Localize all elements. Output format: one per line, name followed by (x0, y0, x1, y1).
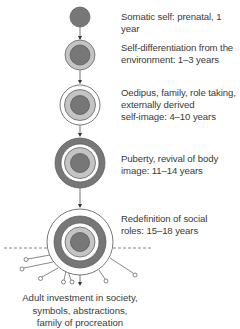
stage-4-label: Puberty, revival of body image: 11–14 ye… (121, 153, 218, 177)
adult-investment-caption: Adult investment in society, symbols, ab… (20, 292, 140, 329)
stage-2-line-2: environment: 1–3 years (121, 54, 233, 66)
stage-4-line-2: image: 11–14 years (121, 165, 218, 177)
stage-3-label: Oedipus, family, role taking, externally… (121, 87, 236, 123)
stage-1-label: Somatic self: prenatal, 1 year (121, 11, 240, 35)
stage-3-line-3: self-image: 4–10 years (121, 111, 236, 123)
stage-3-line-1: Oedipus, family, role taking, (121, 87, 236, 99)
stage-5-line-1: Redefinition of social (121, 213, 207, 225)
stage-4-circle (55, 138, 105, 188)
stage-4-line-1: Puberty, revival of body (121, 153, 218, 165)
caption-line-3: family of procreation (20, 317, 140, 329)
stage-1-circle (70, 7, 90, 27)
caption-line-2: symbols, abstractions, (20, 305, 140, 318)
stage-5-circle (47, 209, 113, 275)
stage-2-label: Self-differentiation from the environmen… (121, 42, 233, 66)
stage-2-circle (65, 40, 95, 70)
stage-5-line-2: roles: 15–18 years (121, 225, 207, 237)
caption-line-1: Adult investment in society, (20, 292, 140, 305)
stage-2-line-1: Self-differentiation from the (121, 42, 233, 54)
stage-1-text: Somatic self: prenatal, 1 year (121, 11, 221, 34)
stage-3-line-2: externally derived (121, 99, 236, 111)
stage-3-circle (60, 85, 100, 125)
stage-5-label: Redefinition of social roles: 15–18 year… (121, 213, 207, 237)
